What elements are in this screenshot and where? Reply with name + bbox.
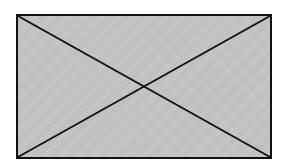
- cross-lines-icon: [18, 16, 270, 157]
- image-placeholder: [16, 14, 272, 159]
